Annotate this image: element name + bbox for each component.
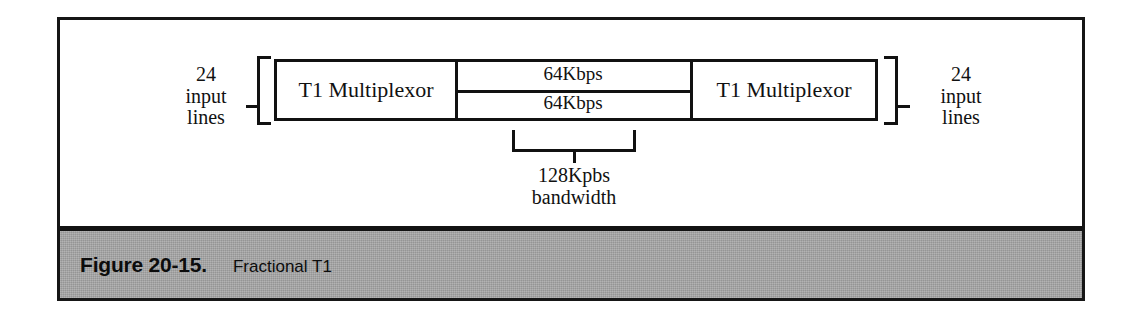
right-endpoint-line-2: input <box>915 86 1007 108</box>
left-endpoint-label: 24 input lines <box>160 64 252 129</box>
trunk-line-top <box>458 59 692 62</box>
left-bracket-spine <box>257 56 260 125</box>
right-bracket-tick <box>898 105 910 108</box>
figure-title: Fractional T1 <box>233 257 332 277</box>
figure-page: 24 input lines T1 Multiplexor <box>0 0 1135 323</box>
mux-box-left-label: T1 Multiplexor <box>298 77 433 103</box>
trunk-line-bottom <box>458 118 692 121</box>
right-bracket-spine <box>895 56 898 125</box>
left-endpoint-line-2: input <box>160 86 252 108</box>
left-bracket-top-arm <box>257 56 271 59</box>
right-bracket-bottom-arm <box>884 122 898 125</box>
channel-1-label: 64Kbps <box>503 63 643 85</box>
bandwidth-label-line-1: 128Kpbs <box>494 164 654 186</box>
mux-box-right-label: T1 Multiplexor <box>716 77 851 103</box>
figure-caption-bar: Figure 20-15. Fractional T1 <box>60 226 1082 298</box>
figure-caption: Figure 20-15. Fractional T1 <box>60 253 332 277</box>
figure-frame: 24 input lines T1 Multiplexor <box>57 17 1085 301</box>
left-endpoint-line-3: lines <box>160 107 252 129</box>
mux-box-right: T1 Multiplexor <box>690 59 878 121</box>
right-endpoint-label: 24 input lines <box>915 64 1007 129</box>
figure-number: Figure 20-15. <box>80 253 207 277</box>
diagram-canvas: 24 input lines T1 Multiplexor <box>60 20 1082 226</box>
bandwidth-label-line-2: bandwidth <box>494 186 654 208</box>
right-endpoint-line-1: 24 <box>915 64 1007 86</box>
left-bracket-bottom-arm <box>257 122 271 125</box>
right-bracket-top-arm <box>884 56 898 59</box>
mux-box-left: T1 Multiplexor <box>274 59 458 121</box>
bandwidth-bracket-right-leg <box>633 130 636 152</box>
bandwidth-label: 128Kpbs bandwidth <box>494 164 654 208</box>
channel-2-label: 64Kbps <box>503 92 643 114</box>
bandwidth-bracket-stem <box>573 149 576 163</box>
left-endpoint-line-1: 24 <box>160 64 252 86</box>
right-endpoint-line-3: lines <box>915 107 1007 129</box>
